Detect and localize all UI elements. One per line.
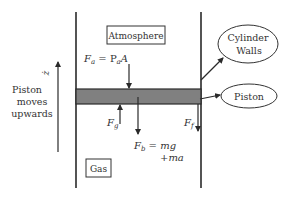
force-fg: Fg [106,105,120,130]
force-fb: Fb = mg +ma [133,97,184,163]
direction-label-3: upwards [11,108,53,119]
cylinder-walls-label-1: Cylinder [227,32,269,43]
piston-label: Piston [234,91,264,102]
fa-label: Fa = PaA [83,53,128,66]
atmosphere-label: Atmosphere [107,31,163,41]
piston-diagram: Atmosphere Gas Fa = PaA Fg Fb = mg +ma F… [0,0,284,198]
piston-callout: Piston [200,84,277,108]
cylinder-walls-label-2: Walls [236,45,262,56]
force-ff: Ff [183,104,198,131]
z-dot-label: ż [41,70,51,76]
fg-label: Fg [106,117,119,130]
gas-label: Gas [90,164,108,174]
gas-box: Gas [86,159,111,177]
atmosphere-box: Atmosphere [107,26,165,44]
motion-indicator: ż Piston moves upwards [11,62,58,152]
cylinder-walls-callout: Cylinder Walls [201,25,278,80]
fb-label-line2: +ma [160,152,184,163]
direction-label-2: moves [17,96,48,107]
force-fa: Fa = PaA [83,53,129,88]
direction-label-1: Piston [12,84,42,95]
cylinder-walls-pointer [201,58,223,80]
ff-label: Ff [183,117,195,130]
piston-pointer [200,95,220,99]
